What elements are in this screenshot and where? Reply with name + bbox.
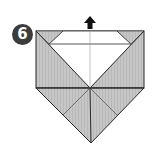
origami-diagram: 6 xyxy=(0,0,161,155)
origami-figure xyxy=(0,0,161,155)
up-arrow-icon xyxy=(84,16,96,29)
